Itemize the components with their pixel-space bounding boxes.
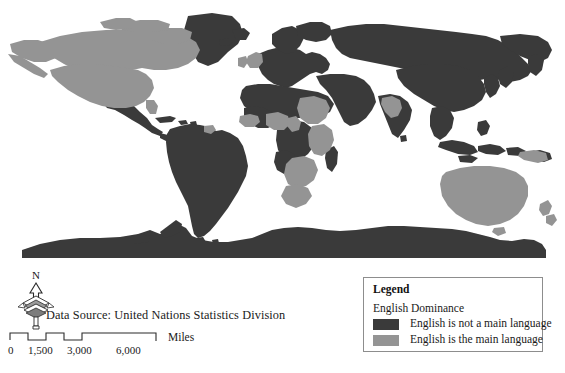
scale-bar-graphic [8,330,168,344]
legend-label-not-main: English is not a main language [410,317,552,329]
scale-bar: Miles 0 1,500 3,000 6,000 [8,330,238,364]
legend-swatch-dark [373,319,399,330]
map-page: N Data Source: United Nations Statistics… [0,0,565,373]
scale-tick-1: 1,500 [28,344,53,356]
data-source-text: Data Source: United Nations Statistics D… [46,308,285,323]
legend-swatch-light [373,335,399,346]
legend-box: Legend English Dominance English is not … [363,277,543,352]
scale-tick-3: 6,000 [116,344,141,356]
legend-subtitle: English Dominance [373,302,464,314]
scale-tick-2: 3,000 [67,344,92,356]
legend-label-main: English is the main language [410,333,543,345]
north-arrow-label: N [16,269,56,281]
legend-title: Legend [373,283,409,295]
world-map[interactable] [0,0,565,265]
scale-bar-unit-label: Miles [168,331,194,343]
compass-rose-icon [16,281,56,331]
scale-tick-0: 0 [8,344,14,356]
world-map-svg [0,0,565,265]
